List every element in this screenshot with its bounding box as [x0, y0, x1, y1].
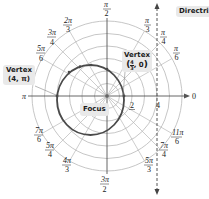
polar-graph: π 2 π 3 π 4 π 6 0 11π 6 7π 4 5π 3 3π 2 4…: [0, 0, 209, 199]
vertex-right-callout: Vertex (43, 0): [122, 50, 152, 72]
vertex-right-coords: (43, 0): [124, 60, 150, 71]
svg-text:3π: 3π: [47, 28, 57, 37]
svg-text:π: π: [104, 0, 109, 9]
svg-text:4: 4: [50, 38, 54, 47]
directrix-arrow-up-icon: [155, 3, 160, 9]
svg-text:6: 6: [39, 54, 43, 63]
svg-text:5π: 5π: [145, 156, 154, 165]
svg-text:0: 0: [192, 92, 196, 101]
svg-text:3π: 3π: [100, 175, 110, 184]
svg-text:7π: 7π: [35, 126, 44, 135]
svg-text:2: 2: [105, 9, 109, 18]
svg-text:4π: 4π: [63, 156, 72, 165]
directrix-text: Directrix: [179, 7, 209, 15]
vertex-left-callout: Vertex (4, π): [3, 65, 35, 85]
radius-label-4: 4: [156, 101, 160, 110]
svg-text:π: π: [145, 16, 150, 25]
svg-text:6: 6: [175, 53, 179, 62]
svg-text:3: 3: [66, 25, 70, 34]
directrix-line: [155, 3, 160, 195]
svg-text:11π: 11π: [172, 128, 184, 137]
svg-text:π: π: [22, 92, 27, 101]
curve-points: [56, 64, 126, 98]
svg-text:7π: 7π: [160, 141, 169, 150]
vertex-left-coords: (4, π): [5, 75, 33, 84]
svg-text:6: 6: [175, 137, 179, 146]
svg-text:3: 3: [146, 25, 150, 34]
svg-text:5π: 5π: [37, 44, 46, 53]
svg-text:5π: 5π: [46, 141, 55, 150]
svg-text:2π: 2π: [64, 16, 73, 25]
focus-label: Focus: [80, 103, 109, 116]
svg-text:4: 4: [162, 150, 166, 159]
svg-text:6: 6: [37, 135, 41, 144]
polar-axis-arrow-icon: [184, 94, 190, 99]
svg-text:π: π: [174, 44, 179, 53]
svg-text:3: 3: [65, 165, 69, 174]
directrix-label: Directrix: [176, 6, 209, 17]
svg-text:3: 3: [147, 165, 151, 174]
vertex-left-title: Vertex: [5, 66, 33, 75]
radius-label-2: 2: [130, 101, 134, 110]
focus-text: Focus: [83, 105, 106, 113]
svg-text:2: 2: [103, 185, 107, 194]
svg-text:4: 4: [162, 37, 166, 46]
directrix-arrow-down-icon: [155, 189, 160, 195]
focus-point: [105, 94, 109, 98]
svg-text:π: π: [161, 28, 166, 37]
svg-text:4: 4: [48, 150, 52, 159]
